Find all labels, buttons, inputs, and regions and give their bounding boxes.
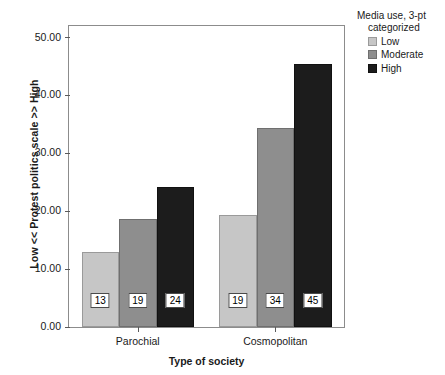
bar-value-label: 34 (266, 293, 285, 308)
legend-item-label: Moderate (381, 49, 423, 60)
bar-chart: Low << Protest politics scale >> High 0.… (0, 0, 445, 375)
y-tick-mark (65, 153, 70, 154)
y-tick-label: 40.00 (35, 88, 61, 100)
bar-cosmopolitan-high: 45 (294, 64, 332, 327)
y-tick-label: 30.00 (35, 146, 61, 158)
legend-title-line-2: categorized (357, 22, 443, 34)
bar-cosmopolitan-moderate: 34 (257, 128, 295, 327)
x-tick-mark (138, 327, 139, 332)
legend-swatch-icon (368, 64, 377, 73)
bar-value-label: 13 (91, 293, 110, 308)
y-tick-label: 0.00 (41, 320, 61, 332)
y-tick-mark (65, 327, 70, 328)
y-tick-label: 50.00 (35, 31, 61, 43)
x-tick-label: Parochial (116, 335, 160, 347)
legend-title: Media use, 3-pt categorized (357, 10, 443, 33)
bar-value-label: 19 (228, 293, 247, 308)
y-tick-label: 20.00 (35, 204, 61, 216)
legend-swatch-icon (368, 50, 377, 59)
plot-area: 0.0010.0020.0030.0040.0050.00131924Paroc… (68, 25, 345, 328)
bar-value-label: 24 (166, 293, 185, 308)
bar-value-label: 45 (303, 293, 322, 308)
legend-swatch-icon (368, 37, 377, 46)
bar-cosmopolitan-low: 19 (219, 215, 257, 327)
legend: Media use, 3-pt categorized LowModerateH… (357, 10, 443, 76)
legend-title-line-1: Media use, 3-pt (357, 10, 426, 21)
legend-items: LowModerateHigh (357, 36, 443, 74)
bar-parochial-low: 13 (82, 252, 120, 327)
legend-item-high[interactable]: High (368, 63, 443, 74)
legend-item-label: High (381, 63, 402, 74)
plot-inner: 0.0010.0020.0030.0040.0050.00131924Paroc… (69, 26, 344, 327)
legend-item-label: Low (381, 36, 399, 47)
bar-parochial-moderate: 19 (119, 219, 157, 327)
bar-parochial-high: 24 (157, 187, 195, 327)
bar-value-label: 19 (128, 293, 147, 308)
y-tick-mark (65, 211, 70, 212)
x-tick-mark (275, 327, 276, 332)
x-axis-title: Type of society (68, 355, 345, 367)
legend-item-moderate[interactable]: Moderate (368, 49, 443, 60)
y-tick-mark (65, 269, 70, 270)
y-tick-mark (65, 37, 70, 38)
x-tick-label: Cosmopolitan (243, 335, 307, 347)
y-tick-mark (65, 95, 70, 96)
legend-item-low[interactable]: Low (368, 36, 443, 47)
y-tick-label: 10.00 (35, 262, 61, 274)
